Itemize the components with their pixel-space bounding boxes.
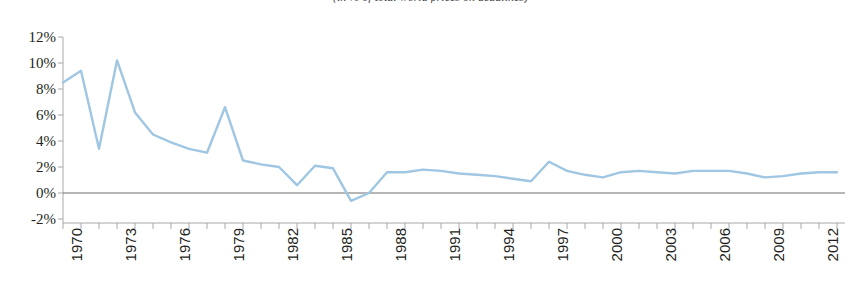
x-tick-label: 1985 — [339, 228, 354, 261]
x-tick-label: 1982 — [285, 228, 300, 261]
x-tick-label: 2009 — [771, 228, 786, 261]
x-tick-label: 1997 — [555, 228, 570, 261]
x-tick-label: 1988 — [393, 228, 408, 261]
x-tick-label: 1991 — [447, 228, 462, 261]
x-tick-label: 2006 — [717, 228, 732, 261]
x-tick-label: 2003 — [663, 228, 678, 261]
x-tick-label: 1970 — [69, 228, 84, 261]
x-tick-label: 2000 — [609, 228, 624, 261]
x-tick-label: 2012 — [825, 228, 840, 261]
x-tick-label: 1976 — [177, 228, 192, 261]
x-axis-labels: 1970197319761979198219851988199119941997… — [0, 0, 861, 299]
x-tick-label: 1973 — [123, 228, 138, 261]
x-tick-label: 1979 — [231, 228, 246, 261]
chart-container: (in % of total world prices on deadlines… — [0, 0, 861, 299]
x-tick-label: 1994 — [501, 228, 516, 261]
